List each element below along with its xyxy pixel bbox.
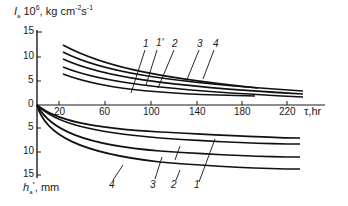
label-unit: , kg cm bbox=[40, 5, 75, 17]
x-tick-20: 20 bbox=[54, 106, 65, 117]
y-ticks-upper bbox=[37, 32, 42, 81]
lower-curve-label-1: 1 bbox=[194, 179, 200, 190]
label-sub: a bbox=[29, 189, 32, 195]
y-tick-lower-5: 5 bbox=[28, 121, 34, 132]
upper-curve-label-4: 4 bbox=[213, 38, 219, 49]
y-tick-10: 10 bbox=[23, 50, 34, 61]
x-tick-180: 180 bbox=[234, 106, 251, 117]
label-unit: , mm bbox=[35, 181, 59, 193]
label-mid: 10 bbox=[20, 5, 35, 17]
lower-curves bbox=[37, 105, 300, 169]
lower-curve-label-3: 3 bbox=[150, 179, 156, 190]
upper-curve-label-2: 2 bbox=[172, 38, 178, 49]
x-tick-100: 100 bbox=[143, 106, 160, 117]
y-tick-5: 5 bbox=[28, 74, 34, 85]
y-tick-lower-10: 10 bbox=[23, 145, 34, 156]
lower-curve-3 bbox=[37, 105, 300, 157]
x-tick-140: 140 bbox=[189, 106, 206, 117]
lower-curve-label-2: 2 bbox=[171, 179, 177, 190]
y-tick-15: 15 bbox=[23, 25, 34, 36]
lower-y-axis-label: ha*, mm bbox=[23, 181, 59, 195]
x-tick-220: 220 bbox=[279, 106, 296, 117]
lower-curve-label-4: 4 bbox=[109, 179, 115, 190]
upper-curve-label-1: 1 bbox=[143, 38, 149, 49]
y-tick-0: 0 bbox=[28, 98, 34, 109]
x-tick-60: 60 bbox=[99, 106, 110, 117]
chart-canvas bbox=[0, 0, 348, 206]
y-tick-lower-15: 15 bbox=[23, 168, 34, 179]
label-unit2-exp: -1 bbox=[87, 4, 93, 11]
upper-curve-label-1prime: 1' bbox=[156, 37, 163, 48]
upper-y-axis-label: Ia 106, kg cm-2s-1 bbox=[14, 4, 93, 19]
lower-curve-2 bbox=[37, 105, 300, 144]
lower-leaders bbox=[113, 139, 215, 182]
lower-curve-1 bbox=[37, 105, 300, 138]
upper-curve-label-3: 3 bbox=[197, 38, 203, 49]
upper-curves bbox=[63, 45, 303, 97]
x-axis-label: τ,hr bbox=[304, 105, 321, 117]
